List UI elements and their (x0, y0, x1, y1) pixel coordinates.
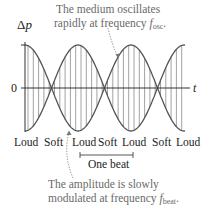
loudness-label-6: Soft (152, 136, 171, 148)
beat-arrowhead-icon (67, 131, 72, 136)
beat-annotation: The amplitude is slowly modulated at fre… (48, 177, 179, 209)
loudness-label-5: Loud (122, 136, 146, 148)
osc-annotation-line1: The medium oscillates (56, 2, 166, 16)
loudness-label-7: Loud (176, 136, 200, 148)
x-axis-label: t (193, 81, 196, 96)
beat-annotation-line1: The amplitude is slowly (48, 177, 179, 191)
loudness-label-2: Soft (44, 136, 63, 148)
loudness-label-1: Loud (14, 136, 38, 148)
beats-diagram: The medium oscillates rapidly at frequen… (0, 0, 210, 211)
loudness-label-4: Soft (98, 136, 117, 148)
beat-annotation-line2: modulated at frequency fbeat. (48, 191, 179, 209)
osc-annotation: The medium oscillates rapidly at frequen… (56, 2, 166, 34)
one-beat-label: One beat (88, 158, 129, 170)
osc-annotation-line2: rapidly at frequency fosc. (54, 16, 166, 34)
zero-label: 0 (11, 81, 17, 96)
y-axis-label: Δp (17, 17, 32, 33)
loudness-label-3: Loud (72, 136, 96, 148)
